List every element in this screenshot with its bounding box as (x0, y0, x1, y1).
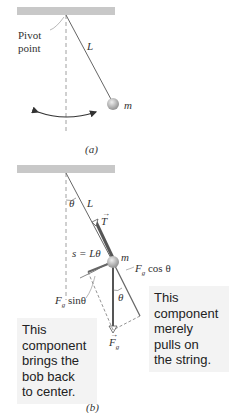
left-note-line: component (22, 338, 92, 354)
right-note-line: the string. (154, 352, 224, 368)
left-note: This component brings the bob back to ce… (17, 318, 97, 404)
arc-length-label: s = Lθ (72, 248, 101, 259)
length-label-a: L (87, 41, 93, 52)
pivot-label: Pivot point (18, 30, 41, 54)
swing-arrow-icon (38, 112, 96, 117)
cos-component-label: Fg cos θ (135, 263, 171, 277)
theta-label-bottom: θ (118, 292, 123, 303)
right-note-line: component (154, 306, 224, 322)
caption-a: (a) (85, 144, 98, 155)
mass-label-a: m (124, 100, 132, 111)
bob-b (107, 256, 119, 268)
pivot-label-line2: point (18, 43, 41, 54)
right-note: This component merely pulls on the strin… (149, 286, 229, 372)
right-note-line: pulls on (154, 337, 224, 353)
left-note-line: This (22, 322, 92, 338)
bob-a (107, 98, 119, 110)
gravity-label: Fg → (109, 337, 119, 351)
tension-label: T → (101, 216, 107, 227)
left-note-line: brings the (22, 353, 92, 369)
sin-F: F (55, 294, 62, 306)
dashed-parallelogram-right (113, 316, 140, 330)
pivot-label-line1: Pivot (18, 30, 41, 41)
cos-suffix: cos θ (145, 262, 170, 274)
length-label-b: L (87, 198, 93, 209)
cos-leader-line (126, 267, 134, 270)
sin-component-label: Fg sinθ (55, 295, 86, 309)
cos-F: F (135, 262, 142, 274)
vector-arrow-icon: → (102, 210, 110, 218)
right-note-line: This (154, 290, 224, 306)
ceiling-b (17, 165, 115, 173)
ceiling-a (17, 7, 115, 15)
pivot-leader-line (50, 17, 64, 30)
right-note-line: merely (154, 321, 224, 337)
gravity-vector-arrow-icon: → (110, 331, 118, 339)
caption-b: (b) (86, 402, 99, 413)
sin-leader-line (86, 276, 95, 298)
mass-label-b: m (121, 252, 129, 263)
theta-label-top: θ (69, 198, 74, 209)
sin-suffix: sinθ (65, 294, 86, 306)
gravity-sub: g (116, 343, 120, 351)
string-a (66, 15, 113, 103)
left-note-line: bob back (22, 369, 92, 385)
left-note-line: to center. (22, 384, 92, 400)
